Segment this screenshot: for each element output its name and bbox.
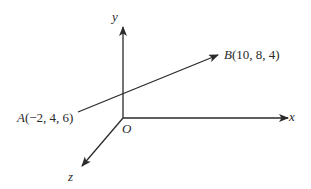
diagram-canvas	[0, 0, 311, 189]
x-axis-label: x	[289, 110, 295, 123]
z-axis	[82, 118, 123, 166]
point-a-name: A	[17, 110, 25, 125]
point-a-coords: (−2, 4, 6)	[25, 110, 74, 125]
vector-ab	[78, 55, 218, 112]
z-axis-label: z	[68, 170, 73, 183]
origin-label: O	[122, 122, 131, 135]
point-b-label: B(10, 8, 4)	[224, 48, 280, 61]
point-a-label: A(−2, 4, 6)	[17, 111, 73, 124]
point-b-name: B	[224, 47, 232, 62]
point-b-coords: (10, 8, 4)	[232, 47, 280, 62]
y-axis-label: y	[112, 10, 118, 23]
